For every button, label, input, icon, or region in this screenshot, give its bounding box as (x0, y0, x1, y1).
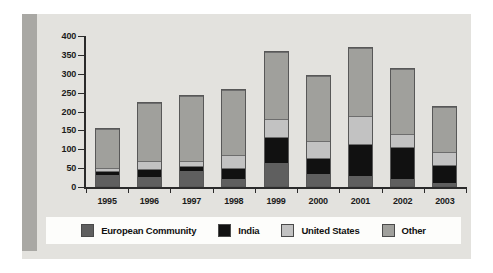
legend-item-other[interactable]: Other (382, 224, 426, 237)
y-axis-tick (78, 130, 84, 131)
legend-swatch-india (218, 224, 231, 237)
y-axis-tick-label: 250 (48, 89, 76, 98)
bar-segment-india-1996 (138, 169, 161, 176)
legend-item-united-states[interactable]: United States (281, 224, 359, 237)
stacked-bar-chart: 050100150200250300350400 199519961997199… (37, 14, 471, 199)
x-axis-tick-label-1999: 1999 (255, 196, 297, 206)
x-axis-tick-label-2003: 2003 (424, 196, 466, 206)
y-axis-tick (78, 74, 84, 75)
bar-1999[interactable] (264, 51, 289, 187)
y-axis-tick-label: 200 (48, 108, 76, 117)
x-axis-tick-label-1995: 1995 (86, 196, 128, 206)
bar-1996[interactable] (137, 102, 162, 187)
legend-label: Other (402, 225, 426, 236)
bar-segment-india-2002 (391, 147, 414, 179)
x-axis-tick (128, 187, 129, 193)
y-axis-tick-label: 350 (48, 51, 76, 60)
bar-segment-india-2003 (433, 165, 456, 183)
x-axis-tick (170, 187, 171, 193)
legend-item-european-community[interactable]: European Community (81, 224, 196, 237)
legend-label: European Community (101, 225, 196, 236)
y-axis-tick (78, 112, 84, 113)
plot-area (86, 36, 466, 187)
bar-segment-other-2003 (433, 107, 456, 152)
bar-segment-united-states-2001 (349, 116, 372, 144)
x-axis-line (84, 187, 466, 189)
bar-segment-european-community-2003 (433, 183, 456, 186)
y-axis-tick-label: 50 (48, 164, 76, 173)
x-axis-tick (255, 187, 256, 193)
bar-segment-other-2002 (391, 69, 414, 134)
bar-segment-european-community-2000 (307, 174, 330, 186)
legend-swatch-united-states (281, 224, 294, 237)
bar-2001[interactable] (348, 47, 373, 187)
bar-segment-united-states-1999 (265, 119, 288, 136)
bar-2000[interactable] (306, 75, 331, 187)
x-axis-tick (466, 187, 467, 193)
x-axis-tick (424, 187, 425, 193)
legend-swatch-european-community (81, 224, 94, 237)
y-axis-tick (78, 187, 84, 188)
bar-segment-european-community-1999 (265, 163, 288, 186)
chart-container: 050100150200250300350400 199519961997199… (37, 14, 471, 259)
legend-label: India (238, 225, 259, 236)
bar-segment-european-community-1998 (222, 179, 245, 186)
legend-item-india[interactable]: India (218, 224, 259, 237)
y-axis-tick (78, 36, 84, 37)
bar-segment-united-states-1998 (222, 155, 245, 168)
x-axis-tick-label-2000: 2000 (297, 196, 339, 206)
x-axis-tick (339, 187, 340, 193)
bar-segment-other-1996 (138, 103, 161, 161)
bar-segment-other-1999 (265, 52, 288, 119)
bar-segment-european-community-1997 (180, 171, 203, 186)
y-axis-tick-label: 300 (48, 70, 76, 79)
y-axis-tick (78, 55, 84, 56)
y-axis-tick-label: 100 (48, 145, 76, 154)
bar-1995[interactable] (95, 128, 120, 187)
bar-segment-united-states-1996 (138, 161, 161, 169)
chart-screenshot: 050100150200250300350400 199519961997199… (0, 0, 493, 273)
x-axis-tick (86, 187, 87, 193)
page-gutter-shadow (22, 14, 37, 251)
bar-2002[interactable] (390, 68, 415, 187)
chart-legend: European CommunityIndiaUnited StatesOthe… (46, 217, 461, 244)
x-axis-tick-label-1996: 1996 (128, 196, 170, 206)
x-axis-tick-label-1997: 1997 (171, 196, 213, 206)
legend-label: United States (301, 225, 359, 236)
bar-segment-european-community-2002 (391, 179, 414, 186)
y-axis-tick (78, 168, 84, 169)
y-axis-tick (78, 149, 84, 150)
bar-segment-european-community-2001 (349, 176, 372, 186)
bar-segment-india-2001 (349, 144, 372, 176)
bar-1997[interactable] (179, 95, 204, 187)
y-axis-tick-label: 150 (48, 126, 76, 135)
y-axis-tick-labels: 050100150200250300350400 (45, 14, 76, 199)
x-axis-tick (297, 187, 298, 193)
bar-2003[interactable] (432, 106, 457, 187)
bar-segment-united-states-2000 (307, 141, 330, 158)
bar-segment-india-1999 (265, 137, 288, 163)
bar-segment-india-2000 (307, 158, 330, 174)
bar-segment-other-1998 (222, 90, 245, 154)
bar-segment-european-community-1996 (138, 177, 161, 186)
bar-segment-united-states-2003 (433, 152, 456, 165)
bar-segment-other-2001 (349, 48, 372, 116)
y-axis-tick-label: 400 (48, 32, 76, 41)
bar-segment-united-states-2002 (391, 134, 414, 147)
y-axis-tick-label: 0 (48, 183, 76, 192)
bar-segment-india-1998 (222, 168, 245, 179)
x-axis-tick (213, 187, 214, 193)
bar-segment-european-community-1995 (96, 175, 119, 186)
x-axis-tick-label-1998: 1998 (213, 196, 255, 206)
bar-1998[interactable] (221, 89, 246, 187)
y-axis-tick (78, 93, 84, 94)
bar-segment-other-1997 (180, 96, 203, 161)
x-axis-tick (382, 187, 383, 193)
legend-swatch-other (382, 224, 395, 237)
bar-segment-other-2000 (307, 76, 330, 141)
x-axis-tick-label-2002: 2002 (382, 196, 424, 206)
bar-segment-other-1995 (96, 129, 119, 169)
x-axis-tick-labels: 199519961997199819992000200120022003 (86, 196, 466, 212)
x-axis-tick-label-2001: 2001 (339, 196, 381, 206)
